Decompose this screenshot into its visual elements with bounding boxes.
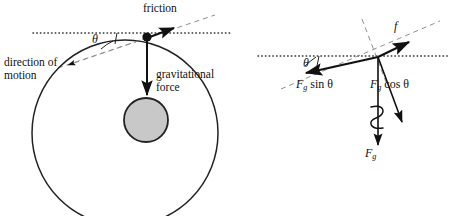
- inner-sphere: [124, 98, 168, 142]
- right-fg-label: Fg: [365, 147, 376, 162]
- fg-subscript: g: [372, 152, 376, 161]
- diagram-canvas: [0, 0, 450, 216]
- left-theta-vertical-tick: [115, 33, 117, 44]
- fg-sin-rest: sin θ: [310, 77, 333, 91]
- physics-force-diagram: friction θ direction of motion gravitati…: [0, 0, 450, 216]
- right-fg-cos-theta-label: Fg cos θ: [370, 78, 409, 93]
- left-gravitational-force-label: gravitational force: [156, 68, 224, 94]
- contact-point-dot: [142, 32, 151, 41]
- left-friction-label: friction: [143, 2, 177, 15]
- right-theta-tick: [317, 56, 319, 66]
- left-theta-label: θ: [92, 33, 98, 46]
- right-friction-symbol-label: f: [394, 20, 397, 33]
- right-normal-dashed-line: [362, 19, 386, 82]
- right-fg-sin-theta-label: Fg sin θ: [296, 78, 333, 93]
- right-friction-arrow: [378, 42, 409, 57]
- left-direction-of-motion-label: direction of motion: [4, 56, 76, 82]
- fg-cos-rest: cos θ: [384, 77, 409, 91]
- fg-coil-marker: [371, 106, 383, 128]
- right-theta-label: θ: [303, 57, 309, 70]
